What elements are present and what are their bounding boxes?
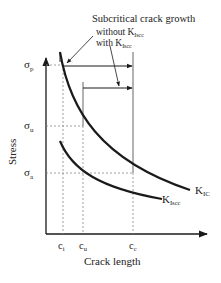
title: Subcritical crack growth bbox=[92, 13, 196, 24]
curve-kic bbox=[60, 52, 190, 190]
tick-sigma-p: σp bbox=[24, 58, 34, 73]
label-kic: KIC bbox=[195, 184, 210, 198]
curve-kiscc bbox=[60, 141, 162, 199]
label-kiscc: KIscc bbox=[162, 193, 181, 206]
tick-c-c: cc bbox=[129, 240, 137, 252]
tick-c-i: ci bbox=[58, 240, 65, 252]
y-axis-label: Stress bbox=[6, 139, 18, 165]
x-axis-label: Crack length bbox=[84, 255, 141, 267]
dashed-guides bbox=[46, 65, 133, 234]
tick-sigma-a: σa bbox=[24, 166, 34, 181]
tick-sigma-u: σu bbox=[24, 119, 34, 134]
svg-text:with KIscc: with KIscc bbox=[96, 38, 132, 49]
tick-c-u: cu bbox=[79, 240, 88, 252]
svg-text:without KIscc: without KIscc bbox=[96, 27, 144, 38]
crack-growth-diagram: Subcritical crack growth without KIscc w… bbox=[0, 0, 221, 283]
